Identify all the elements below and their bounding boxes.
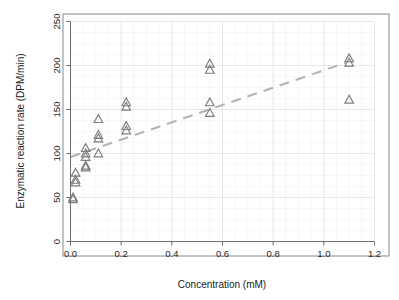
y-tick-label: 100 xyxy=(51,146,62,162)
y-axis xyxy=(67,22,71,242)
y-tick-label: 0 xyxy=(51,239,62,244)
scatter-plot-canvas: 0.00.20.40.60.81.01.2 050100150200250 Co… xyxy=(0,0,399,300)
data-point-marker xyxy=(94,115,103,123)
x-tick-label: 1.0 xyxy=(317,248,330,259)
x-axis-title: Concentration (mM) xyxy=(178,279,266,290)
x-tick-label: 0.8 xyxy=(267,248,280,259)
x-tick-label: 0.2 xyxy=(115,248,128,259)
x-tick-label: 1.2 xyxy=(368,248,381,259)
y-tick-label: 50 xyxy=(51,192,62,203)
y-tick-labels: 050100150200250 xyxy=(51,14,62,245)
data-point-marker xyxy=(81,144,90,152)
y-tick-label: 150 xyxy=(51,102,62,118)
x-tick-label: 0.0 xyxy=(64,248,77,259)
y-tick-label: 250 xyxy=(51,14,62,30)
chart-figure: 0.00.20.40.60.81.01.2 050100150200250 Co… xyxy=(0,0,399,300)
y-axis-title: Enzymatic reaction rate (DPM/min) xyxy=(15,53,26,208)
data-point-marker xyxy=(94,149,103,157)
y-tick-label: 200 xyxy=(51,58,62,74)
x-tick-label: 0.4 xyxy=(165,248,178,259)
x-tick-label: 0.6 xyxy=(216,248,229,259)
x-tick-labels: 0.00.20.40.60.81.01.2 xyxy=(64,248,381,259)
data-point-markers xyxy=(69,54,354,203)
x-axis xyxy=(71,242,375,246)
